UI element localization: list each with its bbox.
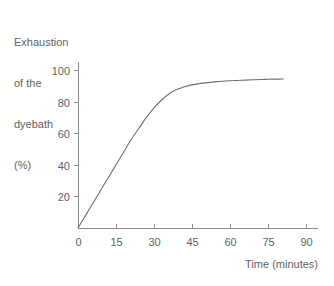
y-tick-label: 60: [58, 128, 70, 140]
y-axis: 20406080100: [52, 62, 79, 229]
series-line-exhaustion: [78, 79, 283, 228]
x-tick-label: 0: [75, 236, 81, 248]
series-group: [78, 79, 283, 228]
x-tick-label: 15: [110, 236, 122, 248]
x-tick-label: 30: [148, 236, 160, 248]
y-tick-label: 40: [58, 160, 70, 172]
x-axis: 0153045607590: [75, 224, 318, 249]
x-tick-label: 75: [262, 236, 274, 248]
plot-area: 20406080100 0153045607590 Time (minutes): [0, 0, 334, 286]
y-tick-label: 20: [58, 191, 70, 203]
x-tick-label: 60: [224, 236, 236, 248]
x-tick-label: 45: [186, 236, 198, 248]
y-tick-label: 80: [58, 97, 70, 109]
chart-container: Exhaustion of the dyebath (%) 2040608010…: [0, 0, 334, 286]
y-tick-label: 100: [52, 65, 70, 77]
y-tick-group: 20406080100: [52, 65, 79, 203]
x-tick-group: 0153045607590: [75, 224, 312, 249]
x-axis-title: Time (minutes): [245, 258, 318, 270]
x-tick-label: 90: [300, 236, 312, 248]
